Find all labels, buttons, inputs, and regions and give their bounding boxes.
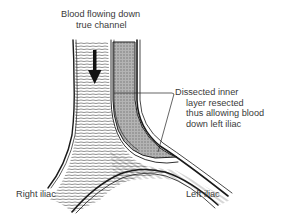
right-iliac-label: Right iliac — [16, 189, 56, 200]
flow-label-line2: true channel — [61, 20, 140, 31]
false-lumen — [113, 42, 177, 158]
dissection-label-line1: Dissected inner — [175, 87, 264, 98]
left-iliac-label: Left iliac — [186, 189, 220, 200]
dissection-label-line4: down left iliac — [175, 119, 264, 130]
flow-label: Blood flowing down true channel — [61, 9, 140, 30]
dissection-label-line2: layer resected — [175, 98, 264, 109]
flow-label-line1: Blood flowing down — [61, 9, 140, 20]
dissection-label: Dissected inner layer resected thus allo… — [175, 87, 264, 129]
dissection-label-line3: thus allowing blood — [175, 108, 264, 119]
